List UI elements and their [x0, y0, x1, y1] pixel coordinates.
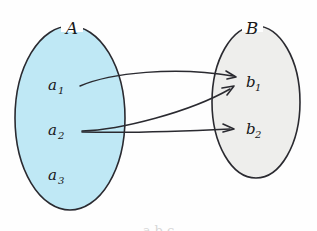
element-b2-subscript: 2 — [254, 129, 261, 140]
element-a1-subscript: 1 — [58, 85, 64, 96]
diagram-canvas: A B a 1 a 2 a 3 b 1 — [0, 0, 317, 231]
element-b1-subscript: 1 — [255, 82, 261, 93]
element-a2-base: a — [48, 121, 57, 139]
set-b-group: B — [212, 18, 300, 178]
set-a-ellipse — [15, 26, 125, 210]
element-a2-subscript: 2 — [57, 130, 64, 141]
set-a-label: A — [64, 18, 78, 38]
set-b-ellipse — [212, 26, 300, 178]
element-a3-subscript: 3 — [58, 175, 64, 186]
set-a-group: A — [15, 18, 125, 210]
set-b-label: B — [245, 18, 259, 38]
element-a3-base: a — [48, 166, 57, 184]
set-mapping-figure: A B a 1 a 2 a 3 b 1 — [0, 0, 317, 231]
element-a1-base: a — [48, 76, 57, 94]
clipped-caption: a b c — [0, 221, 317, 231]
